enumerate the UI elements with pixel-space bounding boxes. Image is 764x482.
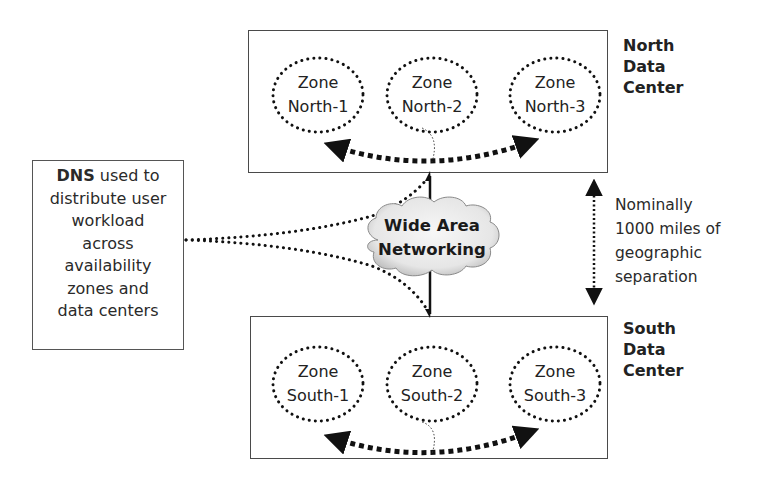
label-line: South bbox=[623, 318, 683, 339]
zone-line: Zone bbox=[510, 360, 600, 384]
label-line: Data bbox=[623, 339, 683, 360]
wan-line-1: Wide Area bbox=[364, 214, 500, 238]
label-line: North bbox=[623, 35, 683, 56]
separation-label: Nominally 1000 miles of geographic separ… bbox=[615, 193, 721, 289]
dns-line-1: DNS used to bbox=[33, 165, 183, 188]
wan-line-2: Networking bbox=[364, 238, 500, 262]
zone-line: North-2 bbox=[387, 95, 477, 119]
label-line: Center bbox=[623, 77, 683, 98]
zone-south-2-label: Zone South-2 bbox=[387, 360, 477, 408]
dns-line-2: distribute user bbox=[33, 188, 183, 211]
dns-bold-term: DNS bbox=[57, 166, 95, 185]
zone-line: Zone bbox=[273, 360, 363, 384]
dns-line-7: data centers bbox=[33, 300, 183, 323]
north-zone-replication-arrow bbox=[333, 142, 530, 161]
dns-line-rest: used to bbox=[95, 166, 160, 185]
zone-north-3-label: Zone North-3 bbox=[510, 71, 600, 119]
zone-north-2-label: Zone North-2 bbox=[387, 71, 477, 119]
north-data-center-label: North Data Center bbox=[623, 35, 683, 98]
south-zone-replication-arrow bbox=[333, 432, 530, 453]
zone-south-1-label: Zone South-1 bbox=[273, 360, 363, 408]
dns-line-5: availability bbox=[33, 255, 183, 278]
dns-line-3: workload bbox=[33, 210, 183, 233]
label-line: Data bbox=[623, 56, 683, 77]
zone-line: Zone bbox=[387, 71, 477, 95]
sep-line-1: Nominally bbox=[615, 193, 721, 217]
sep-line-2: 1000 miles of bbox=[615, 217, 721, 241]
dns-description-box: DNS used to distribute user workload acr… bbox=[32, 160, 184, 350]
sep-line-3: geographic bbox=[615, 241, 721, 265]
zone-line: Zone bbox=[387, 360, 477, 384]
sep-line-4: separation bbox=[615, 265, 721, 289]
label-line: Center bbox=[623, 360, 683, 381]
zone-line: South-1 bbox=[273, 384, 363, 408]
south-data-center-label: South Data Center bbox=[623, 318, 683, 381]
zone-line: North-3 bbox=[510, 95, 600, 119]
zone-line: North-1 bbox=[273, 95, 363, 119]
dns-line-6: zones and bbox=[33, 278, 183, 301]
zone-line: Zone bbox=[273, 71, 363, 95]
zone-line: South-2 bbox=[387, 384, 477, 408]
wan-cloud-label: Wide Area Networking bbox=[364, 214, 500, 262]
zone-line: Zone bbox=[510, 71, 600, 95]
zone-line: South-3 bbox=[510, 384, 600, 408]
dns-line-4: across bbox=[33, 233, 183, 256]
zone-south-3-label: Zone South-3 bbox=[510, 360, 600, 408]
zone-north-1-label: Zone North-1 bbox=[273, 71, 363, 119]
